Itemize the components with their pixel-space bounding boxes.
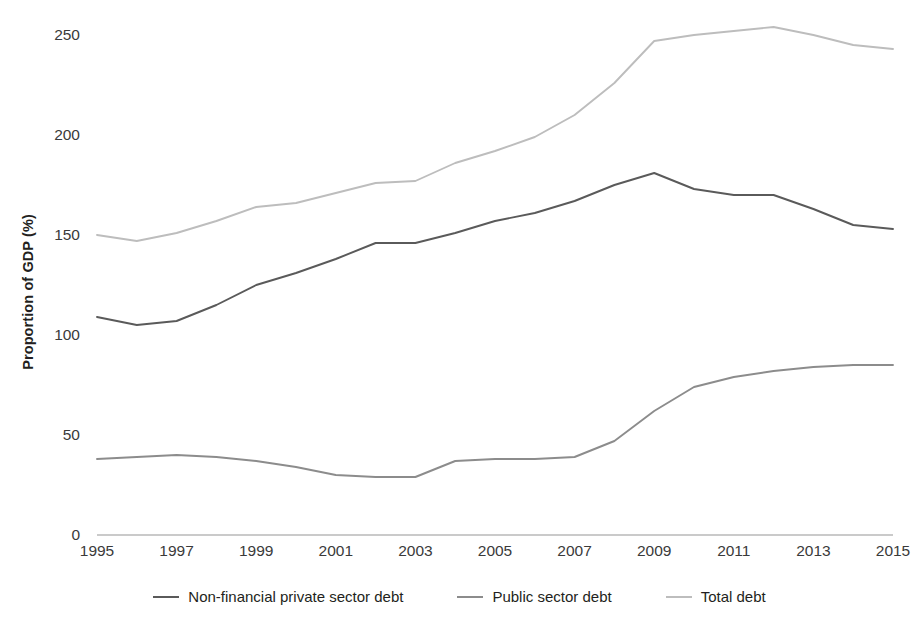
legend-item[interactable]: Total debt xyxy=(666,588,766,605)
legend-label: Public sector debt xyxy=(492,588,611,605)
x-tick-label: 2005 xyxy=(478,542,512,560)
legend-line-icon xyxy=(153,596,179,598)
legend-item[interactable]: Public sector debt xyxy=(457,588,611,605)
x-tick-label: 2001 xyxy=(319,542,353,560)
plot-area xyxy=(0,0,919,626)
series-line xyxy=(97,173,893,325)
x-tick-label: 2015 xyxy=(876,542,910,560)
x-tick-label: 2003 xyxy=(398,542,432,560)
x-tick-label: 1997 xyxy=(159,542,193,560)
x-tick-label: 2007 xyxy=(557,542,591,560)
legend-item[interactable]: Non-financial private sector debt xyxy=(153,588,403,605)
legend-line-icon xyxy=(457,596,483,598)
chart-legend: Non-financial private sector debtPublic … xyxy=(0,588,919,605)
x-tick-label: 2009 xyxy=(637,542,671,560)
x-tick-label: 1999 xyxy=(239,542,273,560)
series-line xyxy=(97,27,893,241)
x-tick-label: 2011 xyxy=(717,542,750,560)
legend-label: Total debt xyxy=(701,588,766,605)
x-tick-label: 2013 xyxy=(796,542,830,560)
x-tick-label: 1995 xyxy=(80,542,114,560)
legend-label: Non-financial private sector debt xyxy=(188,588,403,605)
legend-line-icon xyxy=(666,596,692,598)
line-chart: Proportion of GDP (%) 050100150200250 19… xyxy=(0,0,919,626)
series-paths xyxy=(97,27,893,477)
x-axis-tick-labels: 1995199719992001200320052007200920112013… xyxy=(0,542,919,568)
series-line xyxy=(97,365,893,477)
